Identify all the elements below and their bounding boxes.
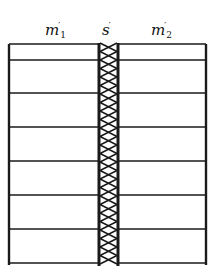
wall-section-diagram (0, 0, 221, 266)
insulation-strip (98, 43, 119, 266)
